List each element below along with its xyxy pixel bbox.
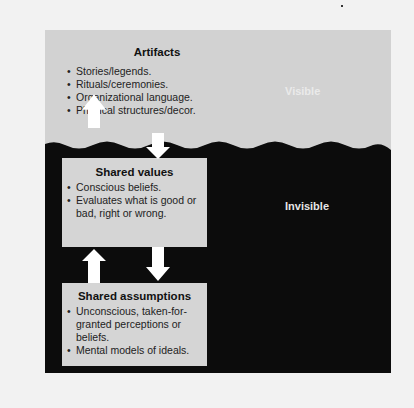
arrow-up-icon (82, 94, 106, 128)
arrow-up-icon (82, 249, 106, 283)
arrow-down-icon (146, 133, 170, 159)
culture-iceberg-diagram: Artifacts Stories/legends. Rituals/cerem… (45, 30, 391, 373)
arrow-down-icon (146, 247, 170, 281)
speck (341, 5, 343, 7)
